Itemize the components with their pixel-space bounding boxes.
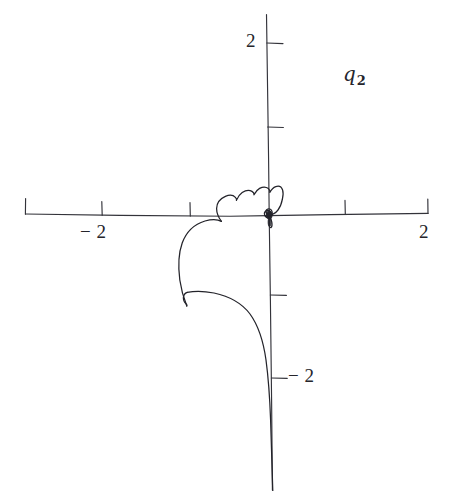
figure-canvas: 2 − 2 2 − 2 q2: [0, 0, 452, 491]
x-axis-line: [26, 213, 429, 216]
trajectory-group: [179, 186, 283, 491]
y-axis-tick-label-minus-2: − 2: [288, 366, 314, 385]
y-axis-tick-label-2: 2: [246, 31, 256, 50]
phase-plane-plot: [0, 0, 452, 491]
y-axis-line: [267, 15, 273, 491]
y-axis-variable-base: q: [343, 62, 356, 86]
x-axis-tick-label-minus-2: − 2: [80, 222, 106, 241]
y-tick-plus-2: [267, 43, 283, 44]
y-axis-variable-label: q2: [343, 64, 366, 87]
y-tick-plus-1: [268, 127, 284, 128]
axes-group: [25, 15, 428, 491]
x-axis-tick-label-2: 2: [419, 222, 429, 241]
trajectory-incoming-tail: [187, 291, 273, 491]
y-axis-variable-subscript: 2: [357, 73, 366, 88]
